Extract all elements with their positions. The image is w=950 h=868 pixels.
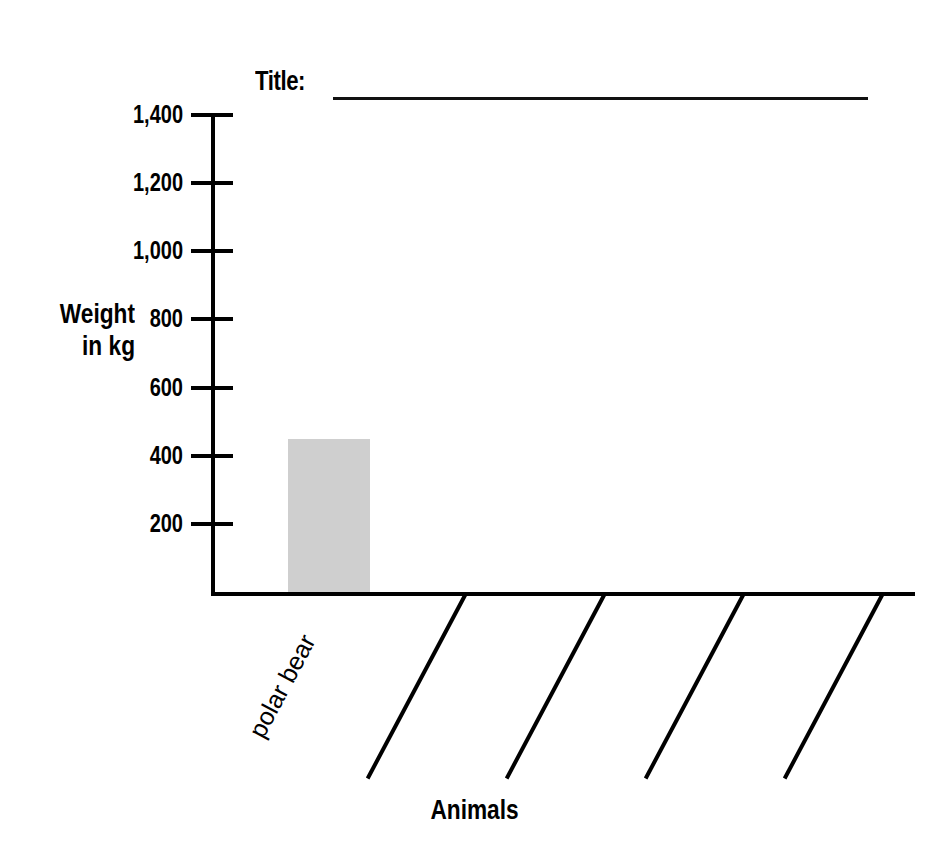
y-axis-tick [191,249,233,253]
x-axis-title-text: Animals [431,795,519,826]
y-axis-tick [191,386,233,390]
x-axis-line [211,592,915,596]
y-axis-tick-label-text: 600 [87,373,183,402]
y-axis-tick-label-text: 1,000 [87,236,183,265]
y-axis-tick [191,113,233,117]
blank-category-line[interactable] [505,592,607,779]
blank-category-line[interactable] [783,592,885,779]
y-axis-tick-label: 1,400 [55,100,183,126]
title-blank-line[interactable] [333,97,868,100]
y-axis-tick-label-text: 1,400 [87,100,183,129]
y-axis-tick [191,454,233,458]
title-row: Title: [255,66,875,110]
y-axis-tick [191,181,233,185]
y-axis-tick-label-text: 400 [87,441,183,470]
bar-graph-worksheet: Title: 2004006008001,0001,2001,400 Weigh… [0,0,950,868]
blank-category-line[interactable] [644,592,746,779]
y-axis-title-line1: Weight [38,298,135,330]
title-label: Title: [255,66,305,97]
y-axis-tick-label: 1,000 [55,236,183,262]
category-label: polar bear [243,630,321,743]
blank-category-line[interactable] [366,592,468,779]
y-axis-tick [191,522,233,526]
y-axis-tick-label-text: 200 [87,509,183,538]
y-axis-tick [191,317,233,321]
y-axis-tick-label: 600 [55,373,183,399]
y-axis-tick-label: 200 [55,509,183,535]
x-axis-title: Animals [0,795,950,826]
y-axis-tick-label-text: 1,200 [87,168,183,197]
y-axis-tick-label: 1,200 [55,168,183,194]
y-axis-title-line2: in kg [38,330,135,362]
bar [288,439,370,592]
y-axis-tick-label: 400 [55,441,183,467]
y-axis-title: Weight in kg [38,298,135,362]
